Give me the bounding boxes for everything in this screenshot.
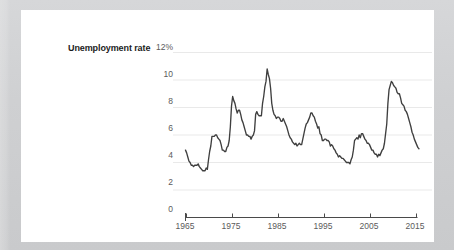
y-tick-label-6: 6 <box>147 123 173 133</box>
gridlines <box>173 53 432 191</box>
x-tick-label-1995: 1995 <box>305 221 341 231</box>
y-tick-label-10: 10 <box>147 69 173 79</box>
x-tick-label-2015: 2015 <box>397 221 433 231</box>
y-tick-label-2: 2 <box>147 177 173 187</box>
unemployment-rate-chart: Unemployment rate 12% 10 8 6 4 2 0 1965 … <box>21 10 434 242</box>
y-tick-label-0: 0 <box>147 204 173 214</box>
page-background: Unemployment rate 12% 10 8 6 4 2 0 1965 … <box>0 0 454 250</box>
x-axis-ticks <box>187 214 417 218</box>
figure-card: Unemployment rate 12% 10 8 6 4 2 0 1965 … <box>21 10 434 242</box>
x-tick-label-2005: 2005 <box>351 221 387 231</box>
chart-series-label: Unemployment rate <box>68 43 150 53</box>
unemployment-rate-line <box>186 69 419 171</box>
y-tick-label-12: 12% <box>147 42 173 52</box>
x-tick-label-1965: 1965 <box>167 221 203 231</box>
x-tick-label-1975: 1975 <box>213 221 249 231</box>
y-tick-label-8: 8 <box>147 96 173 106</box>
x-tick-label-1985: 1985 <box>259 221 295 231</box>
y-tick-label-4: 4 <box>147 150 173 160</box>
